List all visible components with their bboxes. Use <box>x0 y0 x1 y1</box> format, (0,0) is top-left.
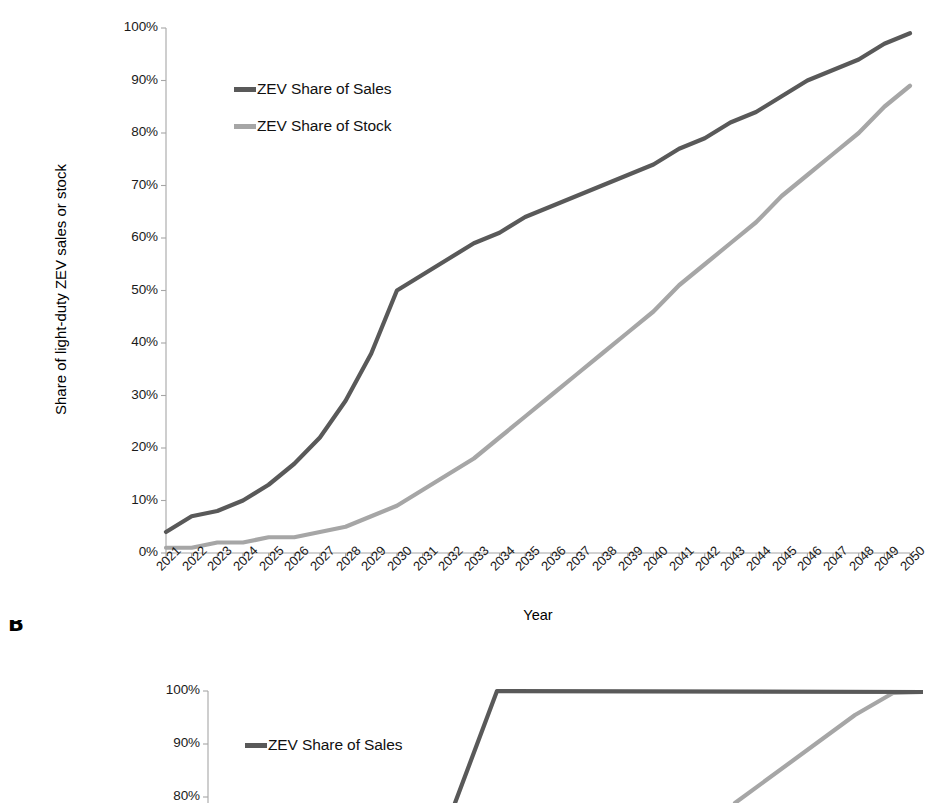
y-tick-label: 50% <box>96 282 158 297</box>
panel-b-legend-label-sales: ZEV Share of Sales <box>268 736 402 754</box>
y-tick-label: 90% <box>96 72 158 87</box>
y-tick-label: 80% <box>96 124 158 139</box>
panel-a: Share of light-duty ZEV sales or stock Y… <box>0 0 923 620</box>
y-tick-label: 30% <box>96 387 158 402</box>
y-tick-label: 60% <box>96 229 158 244</box>
panel-b-series-line-sales <box>455 691 923 803</box>
panel-b-plot <box>0 620 923 803</box>
legend-item-zev-share-of-stock: ZEV Share of Stock <box>234 117 391 135</box>
y-tick-label: 0% <box>96 544 158 559</box>
panel-b-legend-swatch-sales <box>245 743 267 748</box>
legend-swatch-stock <box>234 124 256 129</box>
legend-swatch-sales <box>234 87 256 92</box>
panel-a-series <box>166 33 910 548</box>
panel-b-axes <box>203 691 208 803</box>
legend-item-zev-share-of-sales: ZEV Share of Sales <box>234 80 391 98</box>
y-tick-label: 40% <box>96 334 158 349</box>
panel-b-legend-item-zev-share-of-sales: ZEV Share of Sales <box>245 736 402 754</box>
panel-b: B 100%90%80% ZEV Share of Sales <box>0 620 923 803</box>
y-tick-label: 100% <box>96 19 158 34</box>
panel-b-series <box>455 691 923 803</box>
y-tick-label: 20% <box>96 439 158 454</box>
panel-b-y-tick-label: 80% <box>136 788 200 803</box>
legend-label-sales: ZEV Share of Sales <box>257 80 391 98</box>
legend-label-stock: ZEV Share of Stock <box>257 117 391 135</box>
panel-a-plot <box>0 0 923 620</box>
series-line-sales <box>166 33 910 532</box>
y-tick-label: 10% <box>96 492 158 507</box>
panel-b-y-tick-label: 90% <box>136 735 200 750</box>
y-axis-title: Share of light-duty ZEV sales or stock <box>52 144 69 434</box>
y-tick-label: 70% <box>96 177 158 192</box>
panel-b-y-tick-label: 100% <box>136 682 200 697</box>
panel-b-series-line-stock <box>735 692 923 803</box>
